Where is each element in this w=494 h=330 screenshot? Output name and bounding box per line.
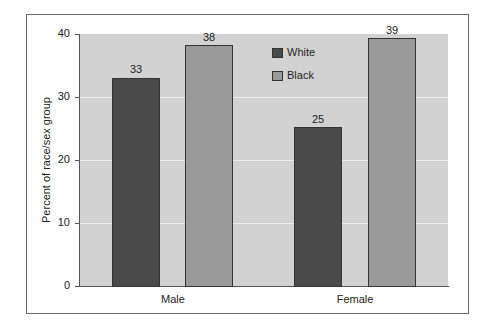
bar-value-label: 33 [112, 63, 160, 75]
y-tick-10 [75, 223, 79, 224]
x-category-label: Female [315, 293, 395, 305]
legend-swatch-white [272, 48, 283, 58]
y-tick-0 [75, 286, 79, 287]
bar-female-black [368, 38, 416, 287]
legend-label-black: Black [287, 69, 314, 81]
y-tick-label: 40 [40, 27, 70, 39]
legend-swatch-black [272, 71, 283, 81]
y-axis [79, 34, 80, 287]
bar-value-label: 38 [185, 31, 233, 43]
x-category-label: Male [133, 293, 213, 305]
y-tick-40 [75, 34, 79, 35]
y-tick-label: 0 [40, 279, 70, 291]
bar-male-black [185, 45, 233, 287]
legend-label-white: White [287, 46, 315, 58]
bar-value-label: 39 [368, 24, 416, 36]
bar-female-white [294, 127, 342, 287]
y-tick-20 [75, 160, 79, 161]
y-axis-label: Percent of race/sex group [40, 97, 52, 223]
bar-value-label: 25 [294, 113, 342, 125]
y-tick-30 [75, 97, 79, 98]
bar-male-white [112, 78, 160, 287]
